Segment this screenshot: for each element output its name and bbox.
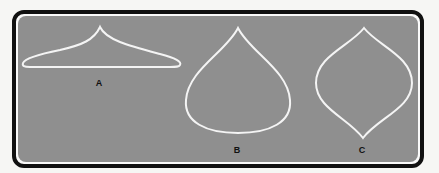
label-b: B bbox=[234, 145, 241, 155]
shape-c bbox=[316, 28, 412, 138]
label-a: A bbox=[96, 78, 103, 88]
label-c: C bbox=[359, 145, 366, 155]
shape-a bbox=[23, 27, 181, 67]
shapes-canvas bbox=[0, 0, 439, 173]
shape-b bbox=[186, 28, 290, 133]
